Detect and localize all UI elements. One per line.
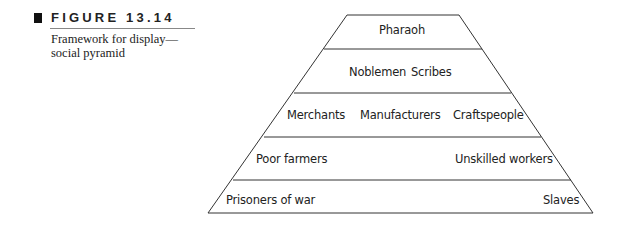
tier-label-pharaoh: Pharaoh: [379, 23, 425, 37]
tier-label-slaves: Slaves: [543, 193, 579, 207]
tier-label-merchants: Merchants: [287, 108, 345, 122]
tier-label-craftspeople: Craftspeople: [453, 108, 524, 122]
tier-label-scribes: Scribes: [411, 65, 452, 79]
tier-label-noblemen: Noblemen: [349, 65, 406, 79]
tier-label-prisoners-of-war: Prisoners of war: [226, 193, 315, 207]
tier-label-poor-farmers: Poor farmers: [256, 152, 327, 166]
tier-label-unskilled-workers: Unskilled workers: [455, 152, 553, 166]
tier-label-manufacturers: Manufacturers: [360, 108, 440, 122]
